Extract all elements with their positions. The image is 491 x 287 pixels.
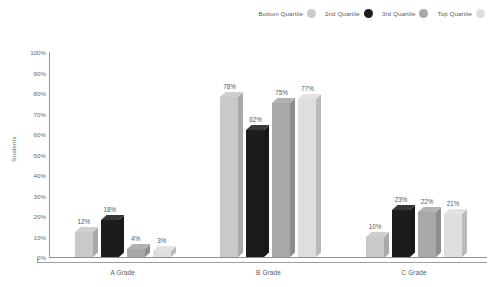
legend-label: 3rd Quartile bbox=[382, 10, 416, 17]
bar-c-grade-series-1[interactable]: 10% bbox=[366, 237, 384, 258]
bar-side-face bbox=[264, 125, 269, 257]
legend-item-4[interactable]: Top Quartile bbox=[437, 9, 485, 18]
bar-c-grade-series-4[interactable]: 21% bbox=[444, 214, 462, 257]
legend-swatch-icon bbox=[307, 9, 316, 18]
legend-label: 2nd Quartile bbox=[325, 10, 360, 17]
bar-value-label: 22% bbox=[421, 198, 434, 205]
y-axis-tick-label: 70% bbox=[34, 110, 46, 117]
bar-side-face bbox=[316, 95, 321, 257]
bar-a-grade-series-2[interactable]: 18% bbox=[101, 220, 119, 257]
bar-front-face bbox=[75, 232, 93, 257]
bar-front-face bbox=[392, 210, 410, 257]
y-axis-tick-label: 80% bbox=[34, 90, 46, 97]
x-axis-group-label: C Grade bbox=[341, 269, 487, 276]
bar-a-grade-series-3[interactable]: 4% bbox=[127, 249, 145, 257]
plot-area: 12%18%4%3%A Grade78%62%75%77%B Grade10%2… bbox=[50, 52, 487, 257]
bar-group: 10%23%22%21%C Grade bbox=[341, 52, 487, 257]
bar-c-grade-series-3[interactable]: 22% bbox=[418, 212, 436, 257]
legend-swatch-icon bbox=[476, 9, 485, 18]
legend-item-2[interactable]: 2nd Quartile bbox=[325, 9, 373, 18]
bar-value-label: 75% bbox=[275, 89, 288, 96]
bar-c-grade-series-2[interactable]: 23% bbox=[392, 210, 410, 257]
x-axis-line bbox=[49, 257, 487, 258]
bar-front-face bbox=[298, 99, 316, 257]
bar-b-grade-series-4[interactable]: 77% bbox=[298, 99, 316, 257]
y-axis-tick-label: 40% bbox=[34, 172, 46, 179]
legend-swatch-icon bbox=[419, 9, 428, 18]
legend-swatch-icon bbox=[364, 9, 373, 18]
legend-label: Bottom Quartile bbox=[258, 10, 303, 17]
bar-side-face bbox=[290, 99, 295, 257]
y-axis-ticks: 100%90%80%70%60%50%40%30%20%10%0% bbox=[14, 0, 46, 287]
bar-b-grade-series-2[interactable]: 62% bbox=[246, 130, 264, 257]
bar-a-grade-series-1[interactable]: 12% bbox=[75, 232, 93, 257]
bar-front-face bbox=[101, 220, 119, 257]
y-axis-tick-label: 50% bbox=[34, 151, 46, 158]
bar-group: 78%62%75%77%B Grade bbox=[196, 52, 342, 257]
bar-front-face bbox=[272, 103, 290, 257]
y-axis-tick-label: 30% bbox=[34, 192, 46, 199]
bar-value-label: 3% bbox=[157, 237, 166, 244]
bar-value-label: 21% bbox=[447, 200, 460, 207]
bar-front-face bbox=[418, 212, 436, 257]
bar-front-face bbox=[127, 249, 145, 257]
bar-side-face bbox=[119, 216, 124, 257]
legend-item-1[interactable]: Bottom Quartile bbox=[258, 9, 316, 18]
bar-value-label: 12% bbox=[78, 218, 91, 225]
x-axis-group-label: A Grade bbox=[50, 269, 196, 276]
bar-side-face bbox=[410, 205, 415, 257]
bar-a-grade-series-4[interactable]: 3% bbox=[153, 251, 171, 257]
bar-front-face bbox=[366, 237, 384, 258]
legend-item-3[interactable]: 3rd Quartile bbox=[382, 9, 429, 18]
chart-container: Bottom Quartile2nd Quartile3rd QuartileT… bbox=[0, 0, 491, 287]
legend-label: Top Quartile bbox=[437, 10, 472, 17]
bar-front-face bbox=[220, 97, 238, 257]
bar-value-label: 18% bbox=[104, 206, 117, 213]
bar-front-face bbox=[153, 251, 171, 257]
chart-legend: Bottom Quartile2nd Quartile3rd QuartileT… bbox=[258, 9, 485, 18]
bar-b-grade-series-3[interactable]: 75% bbox=[272, 103, 290, 257]
bar-group: 12%18%4%3%A Grade bbox=[50, 52, 196, 257]
y-axis-tick-label: 60% bbox=[34, 131, 46, 138]
bar-side-face bbox=[436, 207, 441, 257]
bar-value-label: 78% bbox=[223, 83, 236, 90]
bar-value-label: 62% bbox=[249, 116, 262, 123]
bar-b-grade-series-1[interactable]: 78% bbox=[220, 97, 238, 257]
bar-value-label: 10% bbox=[369, 223, 382, 230]
y-axis-tick-label: 10% bbox=[34, 233, 46, 240]
x-axis-group-label: B Grade bbox=[196, 269, 342, 276]
bar-value-label: 23% bbox=[395, 196, 408, 203]
bar-value-label: 77% bbox=[301, 85, 314, 92]
bar-front-face bbox=[246, 130, 264, 257]
bar-front-face bbox=[444, 214, 462, 257]
x-axis-floor-line bbox=[37, 262, 487, 263]
y-axis-tick-label: 100% bbox=[30, 49, 46, 56]
bar-side-face bbox=[238, 93, 243, 257]
bar-side-face bbox=[462, 209, 467, 257]
bar-value-label: 4% bbox=[131, 235, 140, 242]
bar-side-face bbox=[93, 228, 98, 257]
y-axis-tick-label: 90% bbox=[34, 69, 46, 76]
y-axis-tick-label: 20% bbox=[34, 213, 46, 220]
